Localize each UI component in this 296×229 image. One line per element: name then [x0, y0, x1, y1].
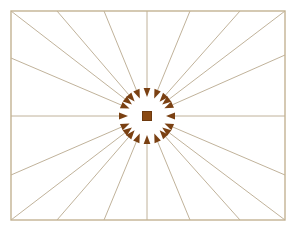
center-square-marker: [143, 112, 152, 121]
radial-convergence-diagram: [0, 0, 296, 229]
radial-diagram-svg: [0, 0, 296, 229]
